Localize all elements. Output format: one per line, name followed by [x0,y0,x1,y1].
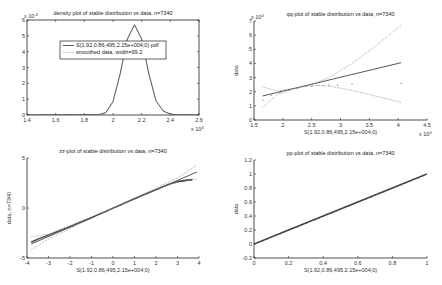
svg-text:+: + [262,239,264,243]
y-exponent-label: x 10-4 [24,12,39,19]
svg-text:+: + [383,190,385,194]
y-tick-label: 1 [249,171,252,177]
svg-text:+: + [318,216,320,220]
svg-text:+: + [275,233,277,237]
x-tick-label: 0.2 [285,260,293,266]
svg-text:+: + [396,184,398,188]
svg-text:+: + [413,177,415,181]
y-tick-label: 1 [249,103,252,109]
data-marker: + [351,82,353,86]
y-tick-label: 0 [22,112,25,118]
x-tick-label: -4 [25,260,30,266]
x-tick-label: 1.8 [81,117,89,123]
x-tick-label: 1 [133,260,136,266]
density-plot: density plot of stable distribution vs d… [22,10,204,132]
x-tick-label: 3 [339,122,342,128]
envelope-line [31,165,197,237]
reference-line [31,172,197,244]
y-tick-label: 3 [22,65,25,71]
y-tick-label: 2 [249,89,252,95]
svg-text:+: + [270,235,272,239]
data-marker: + [316,83,318,87]
legend: S(1.92,0.86,495,2.15e+004;0) pdfsmoothed… [60,41,166,59]
plot-area: ++++++++++++++++++++++++++++++++++++++++… [30,165,196,250]
data-marker: + [400,81,402,85]
x-tick-label: 2.4 [167,117,175,123]
y-axis-label: data, n=7340 [6,192,12,224]
x-tick-label: 0 [111,260,114,266]
y-tick-label: -0.2 [243,255,252,261]
y-tick-label: 5 [249,46,252,52]
svg-text:+: + [305,221,307,225]
svg-text:+: + [374,193,376,197]
svg-text:+: + [422,174,424,178]
x-tick-label: 1 [425,260,428,266]
x-tick-label: 2 [281,122,284,128]
svg-text:+: + [327,212,329,216]
x-tick-label: 0.6 [354,260,362,266]
svg-text:+: + [309,219,311,223]
y-tick-label: 0 [249,117,252,123]
svg-text:+: + [357,200,359,204]
svg-text:+: + [387,188,389,192]
envelope-line [31,179,197,250]
svg-text:+: + [331,211,333,215]
qq-plot: qq-plot of stable distribution vs data, … [233,11,432,137]
legend-entry: smoothed data, width=99.2 [76,49,142,55]
envelope-line [263,25,401,107]
x-tick-label: 2 [154,260,157,266]
y-tick-label: 0 [22,205,25,211]
svg-text:+: + [348,204,350,208]
svg-text:+: + [279,232,281,236]
svg-text:+: + [392,186,394,190]
svg-text:+: + [409,179,411,183]
y-tick-label: 1 [22,96,25,102]
x-tick-label: -2 [68,260,73,266]
svg-text:+: + [344,205,346,209]
chart-title: zz-plot of stable distribution vs data, … [59,148,166,154]
svg-text:+: + [404,181,406,185]
svg-text:+: + [292,226,294,230]
legend-entry: S(1.92,0.86,495,2.15e+004;0) pdf [76,42,159,48]
y-tick-label: 6 [249,32,252,38]
svg-text:+: + [366,197,368,201]
chart-title: qq-plot of stable distribution vs data, … [286,11,394,17]
svg-text:+: + [335,209,337,213]
zz-plot: zz-plot of stable distribution vs data, … [6,148,201,273]
x-tick-label: 0 [252,260,255,266]
x-tick-label: 4 [397,122,400,128]
envelope-line [263,85,401,102]
y-tick-label: 5 [22,155,25,161]
x-tick-label: 4 [197,260,200,266]
figure-canvas: density plot of stable distribution vs d… [0,0,442,285]
y-exponent-label: x 104 [251,13,264,20]
data-marker: + [262,98,264,102]
svg-text:+: + [288,228,290,232]
svg-text:+: + [301,223,303,227]
svg-text:+: + [322,214,324,218]
svg-text:+: + [370,195,372,199]
pp-plot: pp-plot of stable distribution vs data, … [233,150,429,273]
x-tick-label: 2 [111,117,114,123]
y-tick-label: 1.2 [244,157,252,163]
y-tick-label: 2 [22,80,25,86]
svg-text:+: + [379,191,381,195]
y-tick-label: 0 [249,241,252,247]
svg-text:+: + [400,183,402,187]
svg-text:+: + [314,218,316,222]
data-marker: + [322,83,324,87]
x-tick-label: 3.5 [366,122,374,128]
x-tick-label: -1 [89,260,94,266]
y-tick-label: 3 [249,75,252,81]
y-axis-label: data [233,203,239,215]
y-tick-label: -5 [20,255,25,261]
plot-area [27,25,199,115]
plot-area: ++++++++++++++++++++++++++++++++++++++++ [253,174,427,246]
x-tick-label: -3 [46,260,51,266]
x-tick-label: 2.2 [138,117,146,123]
y-tick-label: 4 [22,49,25,55]
y-axis-label: data [233,64,239,76]
svg-text:+: + [257,240,259,244]
x-tick-label: 4.5 [423,122,431,128]
svg-text:+: + [283,230,285,234]
